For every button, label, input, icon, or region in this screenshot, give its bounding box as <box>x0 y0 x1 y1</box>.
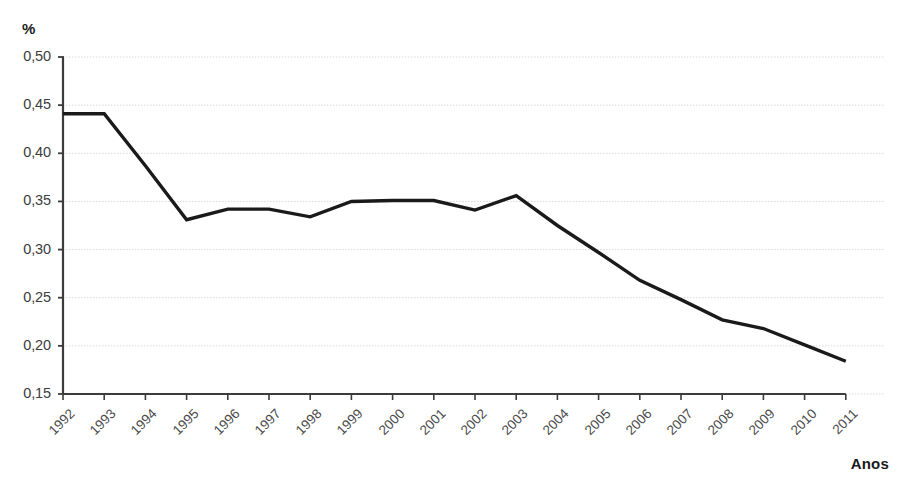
data-series-line <box>63 114 846 361</box>
y-tick-label: 0,25 <box>5 289 51 305</box>
line-chart: % 0,500,450,400,350,300,250,200,15 19921… <box>0 0 911 489</box>
y-tick-label: 0,15 <box>5 385 51 401</box>
y-tick-label: 0,30 <box>5 241 51 257</box>
y-tick-label: 0,35 <box>5 192 51 208</box>
gridlines <box>58 57 885 394</box>
x-axis-title: Anos <box>851 455 889 472</box>
y-tick-label: 0,50 <box>5 48 51 64</box>
y-tick-label: 0,40 <box>5 144 51 160</box>
y-tick-label: 0,45 <box>5 96 51 112</box>
y-tick-label: 0,20 <box>5 337 51 353</box>
